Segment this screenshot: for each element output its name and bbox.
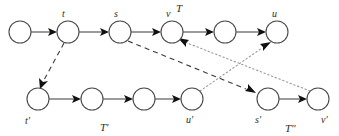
node-t[interactable] <box>57 21 79 43</box>
edge-t-to-tprime <box>44 43 64 80</box>
node-unlabeled-bottom-2[interactable] <box>133 88 155 110</box>
node-t-prime[interactable] <box>27 88 49 110</box>
node-v-prime[interactable] <box>307 88 329 110</box>
label-path-T-double-prime: T" <box>285 122 296 134</box>
edge-group-bottom-left-path <box>49 95 181 103</box>
edge-uprime-to-u <box>200 48 262 91</box>
label-path-T-prime: T' <box>100 121 109 133</box>
graph-diagram: t s v u T t' u' s' v' T' T" <box>0 0 339 136</box>
node-v[interactable] <box>161 21 183 43</box>
label-node-t-prime: t' <box>25 115 31 126</box>
label-node-u: u <box>272 8 277 19</box>
node-s-prime[interactable] <box>257 88 279 110</box>
label-node-u-prime: u' <box>186 114 194 125</box>
edge-group-dotted <box>178 38 310 91</box>
label-node-s-prime: s' <box>255 114 262 125</box>
graph-canvas: t s v u T t' u' s' v' T' T" <box>0 0 339 136</box>
edge-s-to-sprime <box>128 41 246 89</box>
node-group <box>9 21 329 110</box>
label-node-v-prime: v' <box>321 114 328 125</box>
label-path-T: T <box>176 2 183 14</box>
node-u-prime[interactable] <box>181 88 203 110</box>
arrowhead-uprime-to-u <box>260 42 271 51</box>
edge-group-bottom-right-path <box>279 95 307 103</box>
label-node-v: v <box>166 8 171 19</box>
node-u[interactable] <box>266 21 288 43</box>
edge-group-dashed <box>39 41 256 93</box>
label-node-t: t <box>62 8 65 19</box>
edge-v-to-vprime <box>182 41 310 91</box>
node-s[interactable] <box>109 21 131 43</box>
node-unlabeled-top-1[interactable] <box>9 21 31 43</box>
node-unlabeled-top-2[interactable] <box>214 21 236 43</box>
arrowhead-t-to-tprime <box>39 78 48 89</box>
node-unlabeled-bottom-1[interactable] <box>81 88 103 110</box>
label-node-s: s <box>114 8 118 19</box>
arrowhead-s-to-sprime <box>245 84 256 93</box>
